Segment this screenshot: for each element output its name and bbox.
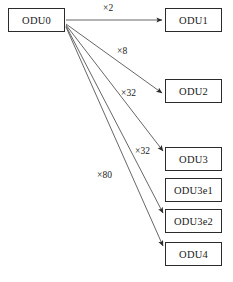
node-odu0[interactable]: ODU0 xyxy=(8,8,65,32)
node-label: ODU2 xyxy=(179,86,208,97)
node-label: ODU0 xyxy=(22,15,51,26)
node-odu3e2[interactable]: ODU3e2 xyxy=(165,209,222,233)
node-odu3[interactable]: ODU3 xyxy=(165,147,222,171)
node-label: ODU1 xyxy=(179,15,208,26)
edge-e-odu3 xyxy=(66,25,163,151)
node-label: ODU4 xyxy=(179,249,208,260)
node-odu3e1[interactable]: ODU3e1 xyxy=(165,178,222,202)
edge-label-e-odu1: ×2 xyxy=(103,3,113,13)
edge-label-e-odu3e2: ×32 xyxy=(135,146,150,156)
edge-label-e-odu2: ×8 xyxy=(117,46,127,56)
edge-e-odu3e2 xyxy=(66,26,163,213)
edge-layer xyxy=(0,0,233,282)
edge-label-e-odu3: ×32 xyxy=(121,88,136,98)
edge-label-e-odu4: ×80 xyxy=(97,170,112,180)
node-odu2[interactable]: ODU2 xyxy=(165,79,222,103)
node-label: ODU3 xyxy=(179,154,208,165)
edge-e-odu4 xyxy=(66,27,163,246)
node-odu4[interactable]: ODU4 xyxy=(165,242,222,266)
edge-lines xyxy=(66,20,163,246)
odu-multiplexing-diagram: ODU0ODU1ODU2ODU3ODU3e1ODU3e2ODU4 ×2×8×32… xyxy=(0,0,233,282)
node-odu1[interactable]: ODU1 xyxy=(165,8,222,32)
node-label: ODU3e2 xyxy=(174,216,213,227)
node-label: ODU3e1 xyxy=(174,185,213,196)
